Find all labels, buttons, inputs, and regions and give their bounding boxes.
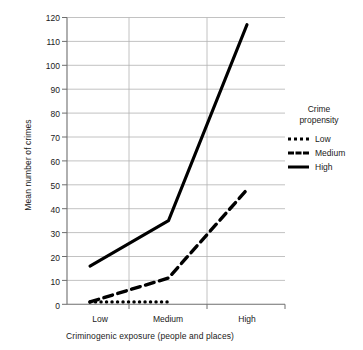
x-tick-marks (129, 304, 285, 309)
legend-title-line2: propensity (288, 115, 350, 126)
series-line-medium (90, 190, 247, 302)
legend-swatch-dashed-icon (288, 148, 309, 158)
legend-label-high: High (315, 162, 332, 172)
series-line-high (90, 25, 247, 266)
y-tick-marks (62, 18, 67, 305)
legend-item-low: Low (288, 132, 363, 145)
legend-title-line1: Crime (288, 104, 350, 115)
legend-item-medium: Medium (288, 146, 363, 159)
data-series-layer (90, 25, 247, 302)
chart-figure: Mean number of crimes Criminogenic expos… (0, 0, 363, 350)
legend-swatch-solid-icon (288, 162, 309, 172)
plot-area (0, 0, 363, 350)
horizontal-gridlines (67, 18, 285, 281)
chart-legend: Crime propensity Low Medium High (288, 104, 363, 173)
legend-label-low: Low (315, 134, 331, 144)
legend-item-high: High (288, 160, 363, 173)
legend-swatch-dotted-icon (288, 134, 309, 144)
legend-label-medium: Medium (315, 148, 345, 158)
